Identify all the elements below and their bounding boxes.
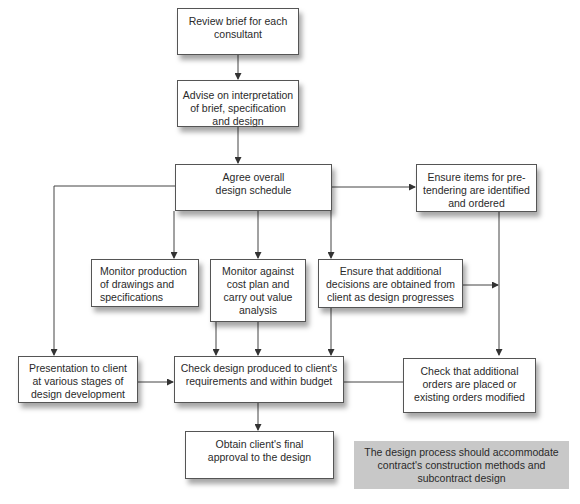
note-text: The design process should accommodate co… [360, 446, 563, 485]
node-label: Monitor production of drawings and speci… [100, 265, 194, 304]
node-label: Ensure items for pre-tendering are ident… [421, 171, 532, 210]
node-label: Ensure that additional decisions are obt… [323, 265, 458, 304]
node-label: Presentation to client at various stages… [25, 362, 131, 401]
node-additional-decisions: Ensure that additional decisions are obt… [318, 259, 463, 308]
node-label: Agree overall design schedule [206, 171, 301, 197]
node-agree-schedule: Agree overall design schedule [175, 164, 332, 211]
node-review-brief: Review brief for each consultant [177, 8, 299, 55]
node-label: Monitor against cost plan and carry out … [217, 265, 299, 317]
node-label: Check that additional orders are placed … [408, 365, 531, 404]
connector-lines [0, 0, 580, 504]
node-presentation-to-client: Presentation to client at various stages… [18, 356, 138, 403]
node-monitor-drawings: Monitor production of drawings and speci… [91, 259, 199, 307]
note-box: The design process should accommodate co… [354, 441, 569, 489]
node-check-orders: Check that additional orders are placed … [403, 358, 536, 413]
node-final-approval: Obtain client's final approval to the de… [185, 431, 334, 479]
node-check-design: Check design produced to client's requir… [174, 356, 344, 403]
node-label: Advise on interpretation of brief, speci… [180, 89, 296, 128]
node-label: Review brief for each consultant [188, 15, 288, 41]
node-label: Check design produced to client's requir… [178, 362, 340, 388]
node-monitor-cost: Monitor against cost plan and carry out … [210, 259, 306, 322]
node-pretendering-items: Ensure items for pre-tendering are ident… [416, 164, 537, 212]
node-advise-interpretation: Advise on interpretation of brief, speci… [177, 80, 299, 127]
node-label: Obtain client's final approval to the de… [200, 438, 319, 464]
